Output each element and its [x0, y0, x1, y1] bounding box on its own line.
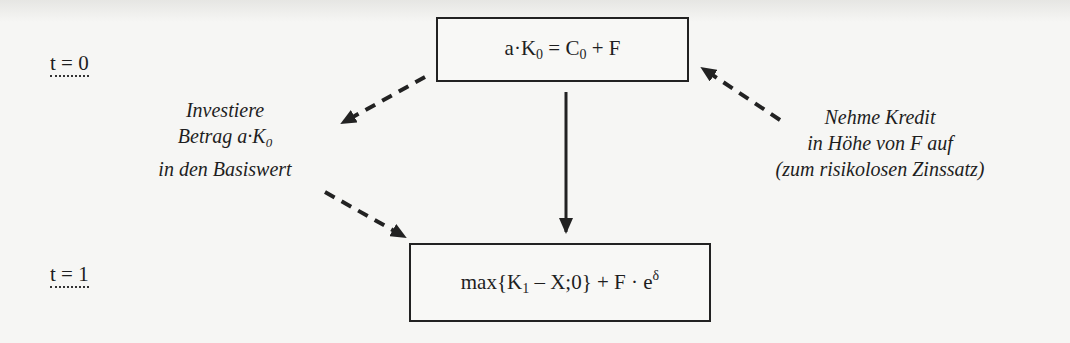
arrow-credit: [702, 68, 780, 120]
arrows-layer: [0, 0, 1070, 343]
arrow-invest-in: [325, 192, 405, 237]
arrow-invest-out: [342, 77, 425, 123]
